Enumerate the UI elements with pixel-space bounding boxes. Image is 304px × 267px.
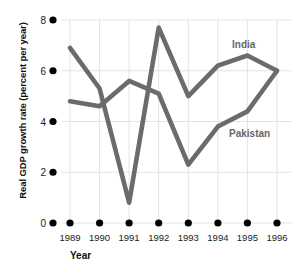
y-axis-ticks: 8 6 4 2 0: [40, 15, 56, 229]
x-tick-dot-1994: [214, 219, 221, 226]
x-tick-label-1991: 1991: [119, 232, 140, 243]
x-tick-label-1994: 1994: [207, 232, 228, 243]
x-axis-title: Year: [70, 250, 91, 261]
y-tick-dot-0: [49, 219, 56, 226]
x-tick-dot-1992: [155, 219, 162, 226]
y-tick-label-8: 8: [40, 15, 46, 26]
series-line-india: [70, 28, 277, 203]
x-tick-label-1995: 1995: [237, 232, 258, 243]
x-tick-dot-1991: [126, 219, 133, 226]
y-tick-dot-2: [49, 169, 56, 176]
series-label-india: India: [232, 39, 256, 50]
series-line-pakistan: [70, 71, 277, 165]
x-tick-label-1992: 1992: [148, 232, 169, 243]
y-tick-dot-8: [49, 16, 56, 23]
x-tick-label-1990: 1990: [89, 232, 110, 243]
y-tick-dot-4: [49, 118, 56, 125]
x-tick-dot-1996: [273, 219, 280, 226]
chart-plot-area: 8 6 4 2 0 1989 1990: [0, 0, 304, 267]
x-tick-dot-1989: [66, 219, 73, 226]
y-tick-label-4: 4: [40, 117, 46, 128]
x-tick-label-1993: 1993: [178, 232, 199, 243]
series-label-pakistan: Pakistan: [229, 128, 270, 139]
gdp-growth-line-chart: Real GDP growth rate (percent per year) …: [0, 0, 304, 267]
x-axis-tick-labels: 1989 1990 1991 1992 1993 1994 1995 1996: [59, 232, 287, 243]
x-tick-dot-1993: [185, 219, 192, 226]
x-tick-dot-1995: [244, 219, 251, 226]
y-tick-dot-6: [49, 67, 56, 74]
horizontal-gridlines: [62, 20, 292, 223]
y-tick-label-2: 2: [40, 167, 46, 178]
x-tick-label-1989: 1989: [59, 232, 80, 243]
x-tick-label-1996: 1996: [266, 232, 287, 243]
x-tick-dot-1990: [96, 219, 103, 226]
y-tick-label-0: 0: [40, 218, 46, 229]
y-tick-label-6: 6: [40, 66, 46, 77]
